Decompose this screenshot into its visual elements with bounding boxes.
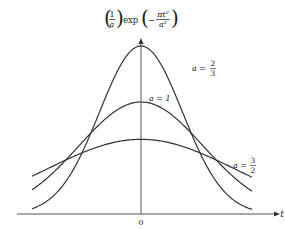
gaussian-chart: ( 1 a ) exp ( − πt² a² ) a = 2 3 a = 1 a… — [0, 0, 285, 229]
svg-text:3: 3 — [251, 156, 256, 165]
svg-text:−: − — [148, 15, 155, 25]
svg-text:a²: a² — [159, 20, 167, 29]
curve-a-2-3 — [32, 46, 252, 209]
svg-text:exp: exp — [123, 15, 139, 25]
svg-text:a =: a = — [192, 64, 206, 73]
curve-a-1 — [32, 102, 252, 191]
label-a-2-3: a = 2 3 — [192, 59, 216, 78]
svg-text:1: 1 — [109, 10, 114, 19]
svg-text:πt²: πt² — [156, 10, 169, 19]
svg-text:3: 3 — [211, 69, 216, 78]
x-axis-arrow-icon — [274, 212, 280, 217]
svg-text:2: 2 — [211, 59, 216, 68]
label-a-1: a = 1 — [149, 94, 171, 103]
svg-text:): ) — [171, 6, 179, 30]
curve-a-3-2 — [32, 139, 252, 177]
svg-text:a: a — [110, 20, 115, 29]
svg-text:a =: a = — [233, 161, 247, 170]
y-axis-arrow-icon — [139, 38, 144, 44]
label-a-3-2: a = 3 2 — [233, 156, 256, 175]
y-axis-label: ( 1 a ) exp ( − πt² a² ) — [104, 6, 179, 30]
origin-tick-label: 0 — [138, 218, 143, 227]
x-axis-label: t — [280, 209, 284, 219]
svg-text:2: 2 — [251, 166, 256, 175]
